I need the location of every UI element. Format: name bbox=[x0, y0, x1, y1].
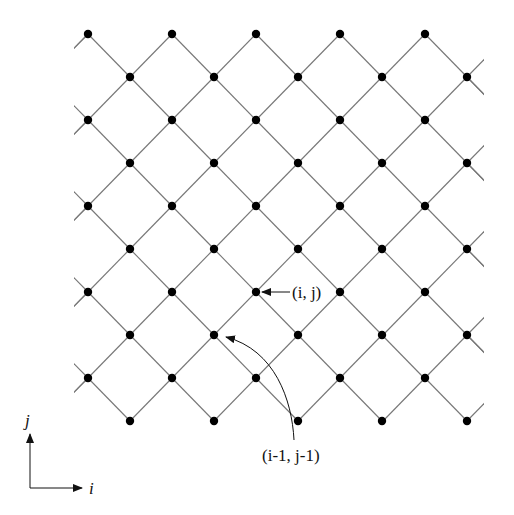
axis-i-label: i bbox=[89, 479, 94, 498]
label-ij: (i, j) bbox=[292, 283, 321, 302]
label-im1-jm1: (i-1, j-1) bbox=[262, 446, 320, 465]
arrow-to-im1-jm1 bbox=[226, 337, 294, 440]
annotations: (i, j) (i-1, j-1) j i bbox=[0, 0, 514, 515]
axis-j-label: j bbox=[23, 411, 30, 430]
lattice-diagram: (i, j) (i-1, j-1) j i bbox=[0, 0, 514, 515]
